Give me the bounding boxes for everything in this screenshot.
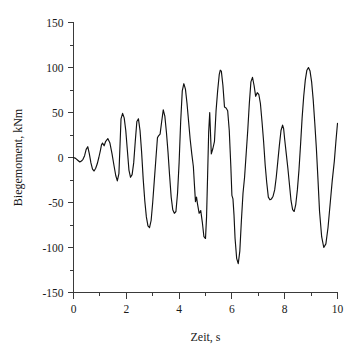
y-tick-label: -50 <box>48 197 64 209</box>
y-tick-label: -150 <box>42 287 63 299</box>
line-chart: 150100500-50-100-150 0246810 Zeit, s Bie… <box>0 0 359 350</box>
x-axis-tick-labels: 0246810 <box>71 303 344 315</box>
y-axis-tick-labels: 150100500-50-100-150 <box>42 17 63 299</box>
x-tick-label: 8 <box>282 303 288 315</box>
y-tick-label: 150 <box>46 17 64 29</box>
y-axis: 150100500-50-100-150 <box>42 17 73 299</box>
x-tick-label: 0 <box>71 303 77 315</box>
y-axis-title: Biegemoment, kNm <box>11 108 25 206</box>
y-tick-label: -100 <box>42 242 63 254</box>
data-series-biegemoment <box>74 68 338 264</box>
figure-container: 150100500-50-100-150 0246810 Zeit, s Bie… <box>0 0 359 350</box>
x-tick-label: 4 <box>176 303 182 315</box>
x-tick-label: 10 <box>332 303 344 315</box>
x-axis: 0246810 <box>71 293 344 315</box>
y-tick-label: 100 <box>46 62 64 74</box>
x-axis-title: Zeit, s <box>191 330 221 344</box>
x-tick-label: 6 <box>229 303 235 315</box>
y-tick-label: 0 <box>58 152 64 164</box>
y-axis-major-ticks <box>68 23 74 293</box>
x-tick-label: 2 <box>123 303 129 315</box>
y-tick-label: 50 <box>52 107 64 119</box>
